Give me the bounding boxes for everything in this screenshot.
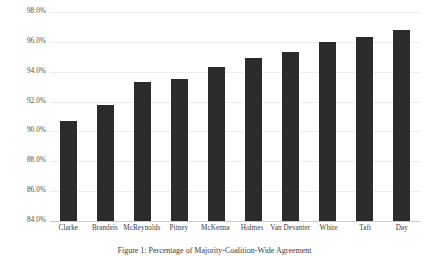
bar (393, 30, 410, 221)
gridline (50, 221, 420, 222)
bar-slot (383, 12, 420, 221)
bar (97, 105, 114, 221)
y-axis-tick-label: 98.0% (4, 8, 46, 15)
bar (319, 42, 336, 221)
bar (245, 58, 262, 221)
figure-caption: Figure 1: Percentage of Majority-Coaliti… (0, 245, 429, 256)
bar-slot (309, 12, 346, 221)
x-axis-tick-label: Pitney (160, 223, 197, 235)
bar (356, 37, 373, 221)
bar-slot (235, 12, 272, 221)
bar (134, 82, 151, 221)
x-axis-tick-label: Brandeis (87, 223, 124, 235)
bar (282, 52, 299, 221)
y-axis-tick-label: 96.0% (4, 38, 46, 45)
bar-slot (272, 12, 309, 221)
bar-slot (161, 12, 198, 221)
plot-area (50, 12, 420, 221)
bar-slot (198, 12, 235, 221)
bar-slot (346, 12, 383, 221)
x-axis-tick-label: McKenna (197, 223, 234, 235)
y-axis-tick-label: 88.0% (4, 157, 46, 164)
bar-slot (50, 12, 87, 221)
x-axis-tick-label: McReynolds (123, 223, 160, 235)
x-axis-tick-label: Clarke (50, 223, 87, 235)
bar-series (50, 12, 420, 221)
bar (60, 121, 77, 221)
x-axis-tick-label: Van Devanter (270, 223, 310, 235)
y-axis-tick-label: 86.0% (4, 187, 46, 194)
x-axis-tick-label: Day (383, 223, 420, 235)
y-axis-tick-label: 90.0% (4, 127, 46, 134)
x-axis-tick-label: White (310, 223, 347, 235)
bar (208, 67, 225, 221)
x-axis-tick-labels: ClarkeBrandeisMcReynoldsPitneyMcKennaHol… (50, 223, 420, 235)
bar-slot (87, 12, 124, 221)
x-axis-tick-label: Holmes (234, 223, 271, 235)
bar (171, 79, 188, 221)
bar-slot (124, 12, 161, 221)
y-axis-tick-label: 94.0% (4, 68, 46, 75)
x-axis-tick-label: Taft (347, 223, 384, 235)
y-axis-tick-label: 92.0% (4, 98, 46, 105)
figure: 98.0%96.0%94.0%92.0%90.0%88.0%86.0%84.0%… (0, 0, 429, 256)
y-axis-tick-label: 84.0% (4, 217, 46, 224)
